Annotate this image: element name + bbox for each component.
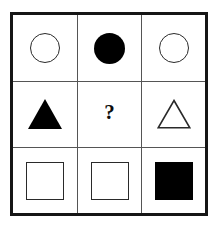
matrix-cell-r2c2[interactable]: ? bbox=[77, 81, 141, 147]
triangle-outline-icon bbox=[157, 99, 191, 129]
triangle-filled-icon bbox=[28, 99, 62, 129]
matrix-cell-r1c1[interactable] bbox=[13, 15, 77, 81]
matrix-grid: ? bbox=[10, 12, 208, 216]
circle-filled-icon bbox=[94, 33, 125, 64]
matrix-cell-r2c3[interactable] bbox=[141, 81, 205, 147]
matrix-cell-r3c2[interactable] bbox=[77, 147, 141, 213]
square-filled-icon bbox=[155, 162, 193, 200]
matrix-cell-r2c1[interactable] bbox=[13, 81, 77, 147]
square-outline-icon bbox=[26, 162, 64, 200]
matrix-cell-r3c3[interactable] bbox=[141, 147, 205, 213]
circle-outline-icon bbox=[159, 33, 189, 63]
puzzle-root: ? bbox=[0, 0, 218, 229]
circle-outline-icon bbox=[30, 33, 60, 63]
question-mark-icon: ? bbox=[104, 102, 115, 123]
square-outline-icon bbox=[91, 162, 129, 200]
matrix-cell-r1c3[interactable] bbox=[141, 15, 205, 81]
matrix-cell-r1c2[interactable] bbox=[77, 15, 141, 81]
matrix-cell-r3c1[interactable] bbox=[13, 147, 77, 213]
